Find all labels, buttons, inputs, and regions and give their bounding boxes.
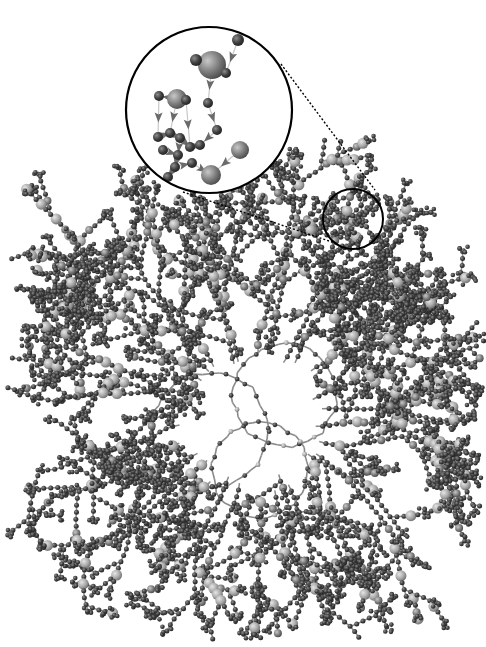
graph-node bbox=[397, 534, 402, 539]
graph-node bbox=[134, 324, 139, 329]
graph-node bbox=[121, 512, 126, 517]
graph-node bbox=[139, 414, 144, 419]
graph-node bbox=[112, 562, 117, 567]
graph-node bbox=[439, 304, 444, 309]
graph-node bbox=[417, 294, 422, 299]
graph-node bbox=[413, 435, 418, 440]
graph-node bbox=[196, 522, 201, 527]
graph-node bbox=[143, 528, 148, 533]
graph-node bbox=[419, 327, 424, 332]
graph-node bbox=[190, 312, 195, 317]
graph-node bbox=[287, 624, 292, 629]
graph-node bbox=[146, 389, 151, 394]
graph-node bbox=[275, 167, 280, 172]
graph-node bbox=[298, 571, 303, 576]
graph-node bbox=[418, 225, 423, 230]
graph-node bbox=[301, 323, 306, 328]
graph-node bbox=[143, 407, 148, 412]
graph-node bbox=[254, 341, 262, 349]
graph-node bbox=[461, 414, 466, 419]
graph-node bbox=[69, 258, 74, 263]
graph-node bbox=[440, 370, 445, 375]
graph-node bbox=[334, 406, 339, 411]
graph-node bbox=[95, 355, 103, 363]
graph-node bbox=[147, 442, 152, 447]
graph-node bbox=[353, 474, 358, 479]
graph-node bbox=[72, 298, 77, 303]
graph-node bbox=[244, 636, 249, 641]
graph-node bbox=[396, 560, 401, 565]
graph-node bbox=[52, 279, 57, 284]
graph-node bbox=[302, 484, 307, 489]
graph-node bbox=[344, 556, 349, 561]
graph-node bbox=[41, 185, 46, 190]
graph-node bbox=[387, 233, 392, 238]
graph-node bbox=[392, 223, 397, 228]
graph-node bbox=[459, 542, 464, 547]
graph-node bbox=[57, 285, 62, 290]
graph-node bbox=[152, 180, 157, 185]
graph-node bbox=[280, 536, 285, 541]
graph-node bbox=[183, 536, 188, 541]
graph-node bbox=[316, 394, 321, 399]
graph-node bbox=[116, 301, 121, 306]
graph-node bbox=[193, 558, 198, 563]
graph-node bbox=[81, 549, 86, 554]
graph-node bbox=[275, 304, 280, 309]
graph-node bbox=[263, 302, 268, 307]
graph-node bbox=[444, 319, 449, 324]
graph-node bbox=[414, 231, 419, 236]
graph-node bbox=[104, 535, 109, 540]
graph-node bbox=[339, 230, 344, 235]
graph-node bbox=[248, 190, 253, 195]
graph-node bbox=[409, 290, 414, 295]
graph-node bbox=[328, 619, 333, 624]
graph-node bbox=[357, 346, 362, 351]
graph-node bbox=[87, 518, 92, 523]
graph-node bbox=[142, 419, 147, 424]
graph-node bbox=[435, 610, 440, 615]
graph-node bbox=[466, 435, 471, 440]
graph-node bbox=[374, 596, 382, 604]
graph-node bbox=[20, 343, 25, 348]
graph-node bbox=[269, 607, 274, 612]
graph-node bbox=[139, 180, 144, 185]
graph-node bbox=[379, 503, 384, 508]
graph-node bbox=[329, 505, 334, 510]
graph-node bbox=[359, 249, 364, 254]
graph-node bbox=[322, 620, 327, 625]
graph-node bbox=[355, 267, 360, 272]
graph-node bbox=[394, 218, 399, 223]
graph-node bbox=[318, 230, 323, 235]
graph-node bbox=[179, 559, 184, 564]
graph-node bbox=[388, 196, 393, 201]
graph-node bbox=[336, 469, 341, 474]
graph-node bbox=[25, 344, 30, 349]
graph-node bbox=[358, 461, 363, 466]
graph-node bbox=[249, 636, 254, 641]
graph-node bbox=[335, 515, 340, 520]
graph-node bbox=[428, 320, 433, 325]
graph-node bbox=[308, 510, 313, 515]
graph-node bbox=[69, 416, 74, 421]
graph-node bbox=[200, 586, 205, 591]
graph-node bbox=[299, 587, 304, 592]
graph-node bbox=[356, 379, 361, 384]
graph-node bbox=[405, 510, 416, 521]
zoom-inset bbox=[126, 27, 292, 193]
graph-node bbox=[148, 380, 153, 385]
graph-node bbox=[294, 625, 299, 630]
graph-node bbox=[459, 471, 464, 476]
graph-node bbox=[66, 262, 71, 267]
graph-node bbox=[197, 363, 202, 368]
graph-node bbox=[342, 516, 347, 521]
graph-node bbox=[258, 507, 263, 512]
graph-node bbox=[314, 275, 319, 280]
graph-node bbox=[75, 483, 80, 488]
graph-node bbox=[395, 570, 406, 581]
graph-node bbox=[195, 326, 200, 331]
graph-node bbox=[362, 353, 367, 358]
graph-node bbox=[393, 399, 398, 404]
graph-node bbox=[339, 529, 344, 534]
graph-node bbox=[59, 561, 64, 566]
